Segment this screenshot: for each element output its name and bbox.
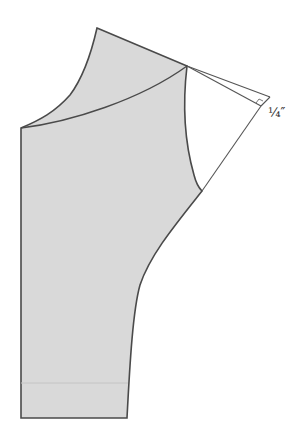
diagonal-guide-line [202, 106, 261, 191]
right-angle-marker [256, 99, 263, 103]
outer-pivot-line [187, 66, 270, 97]
inner-pivot-line [187, 66, 261, 106]
quarter-inch-label: ¼″ [268, 105, 286, 120]
pattern-piece [21, 28, 202, 418]
pattern-diagram: ¼″ [0, 0, 304, 445]
